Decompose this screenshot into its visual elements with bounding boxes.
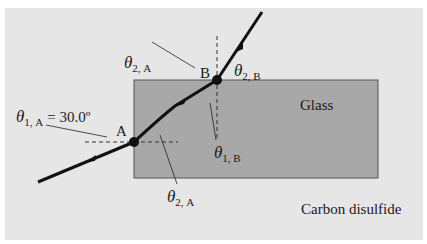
- point-b-label: B: [200, 65, 210, 81]
- glass-label: Glass: [300, 97, 333, 113]
- point-b-marker: [212, 75, 222, 85]
- carbon-disulfide-label: Carbon disulfide: [301, 201, 402, 217]
- refraction-diagram: A B θ2, A θ2, B θ1, A= 30.0º θ1, B θ2, A…: [0, 0, 427, 244]
- glass-block: [134, 80, 378, 178]
- point-a-marker: [129, 137, 139, 147]
- point-a-label: A: [116, 123, 127, 139]
